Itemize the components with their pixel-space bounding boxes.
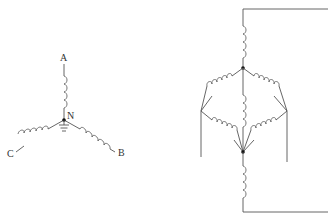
bridge-diagram <box>201 9 328 212</box>
top-series-winding <box>243 26 246 58</box>
wye-diagram: A B C N <box>7 52 125 159</box>
label-a: A <box>60 52 68 63</box>
label-b: B <box>118 147 125 158</box>
center-winding <box>243 68 246 152</box>
lower-right-winding <box>243 111 287 152</box>
diagram-canvas: A B C N <box>0 0 334 219</box>
upper-left-winding <box>201 68 243 111</box>
upper-right-winding <box>243 68 287 111</box>
phase-b-winding <box>64 120 115 152</box>
lower-left-winding <box>201 111 243 152</box>
label-c: C <box>7 148 14 159</box>
bottom-series-winding <box>243 166 246 198</box>
phase-c-winding <box>16 120 64 152</box>
label-n: N <box>67 110 74 121</box>
